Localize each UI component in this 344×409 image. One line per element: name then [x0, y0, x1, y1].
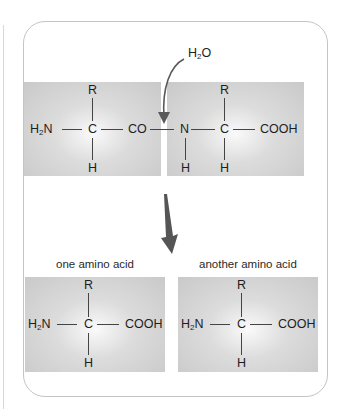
amino-acid-1-r: R	[84, 278, 93, 292]
amino-acid-2-cooh: COOH	[278, 317, 316, 331]
amino-acid-1-h: H	[84, 356, 93, 370]
curved-arrow-icon	[158, 59, 184, 124]
bond	[57, 324, 77, 325]
bond	[241, 333, 242, 355]
bond	[241, 293, 242, 317]
bond	[210, 324, 230, 325]
bond	[88, 293, 89, 317]
down-arrow-icon	[161, 194, 178, 254]
product-caption-1: one amino acid	[56, 258, 134, 270]
amino-acid-2-amine: H2N	[181, 317, 204, 331]
amino-acid-1-c: C	[84, 317, 93, 331]
bond	[97, 324, 119, 325]
product-caption-2: another amino acid	[199, 258, 297, 270]
amino-acid-1-amine: H2N	[28, 317, 51, 331]
amino-acid-2-c: C	[237, 317, 246, 331]
amino-acid-2-h: H	[237, 356, 246, 370]
bond	[88, 333, 89, 355]
bond	[250, 324, 272, 325]
amino-acid-1-cooh: COOH	[125, 317, 163, 331]
amino-acid-2-r: R	[237, 278, 246, 292]
